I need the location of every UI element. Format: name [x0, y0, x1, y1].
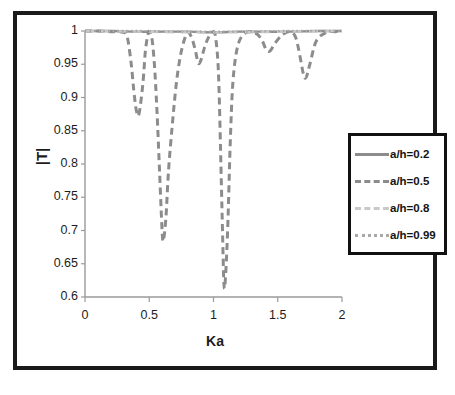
- x-axis-title: Ka: [165, 333, 265, 349]
- y-tick-label: 0.8: [32, 156, 78, 170]
- legend-swatch-dotted-icon: [355, 229, 389, 241]
- y-tick-label: 0.95: [32, 56, 78, 70]
- y-tick-label: 0.65: [32, 256, 78, 270]
- legend-item-1: a/h=0.5: [355, 167, 441, 194]
- series-line-1: [85, 31, 342, 289]
- y-tick-label: 0.85: [32, 123, 78, 137]
- x-tick-label: 2: [322, 308, 362, 322]
- x-axis-ticks: [85, 297, 342, 302]
- y-tick-label: 1: [32, 23, 78, 37]
- y-tick-label: 0.9: [32, 90, 78, 104]
- legend-swatch-dashed-icon: [355, 175, 389, 187]
- legend-label: a/h=0.8: [390, 202, 429, 214]
- legend-item-3: a/h=0.99: [355, 221, 441, 248]
- figure-container: |T| Ka 0.60.650.70.750.80.850.90.951 00.…: [0, 0, 455, 395]
- series-group: [85, 31, 342, 289]
- chart-legend: a/h=0.2a/h=0.5a/h=0.8a/h=0.99: [348, 133, 447, 255]
- y-tick-label: 0.6: [32, 289, 78, 303]
- legend-label: a/h=0.2: [390, 148, 429, 160]
- x-tick-label: 0.5: [129, 308, 169, 322]
- legend-item-2: a/h=0.8: [355, 194, 441, 221]
- legend-item-0: a/h=0.2: [355, 140, 441, 167]
- x-tick-label: 1.5: [258, 308, 298, 322]
- legend-label: a/h=0.99: [390, 229, 436, 241]
- x-tick-label: 0: [65, 308, 105, 322]
- legend-label: a/h=0.5: [390, 175, 429, 187]
- y-tick-label: 0.7: [32, 223, 78, 237]
- x-tick-label: 1: [194, 308, 234, 322]
- legend-swatch-solid-icon: [355, 148, 389, 160]
- y-tick-label: 0.75: [32, 189, 78, 203]
- legend-swatch-long-dash-icon: [355, 202, 389, 214]
